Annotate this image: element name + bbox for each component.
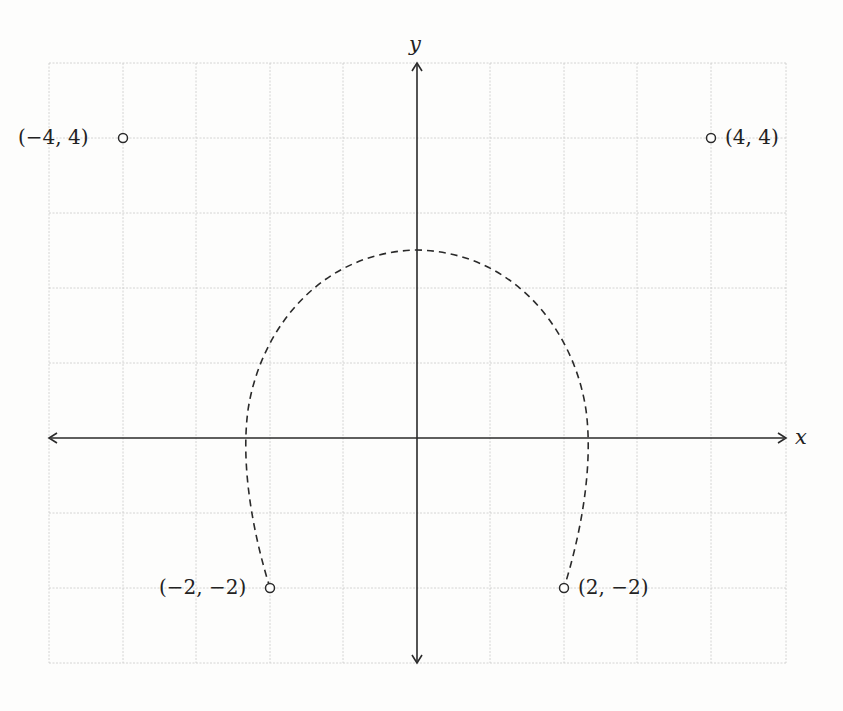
point-label-neg4-4: (−4, 4) xyxy=(18,127,89,147)
point-label-neg2-neg2: (−2, −2) xyxy=(159,577,246,597)
y-axis-label: y xyxy=(409,34,421,55)
point-2-neg2 xyxy=(560,584,569,593)
point-4-4 xyxy=(707,134,716,143)
x-axis-label: x xyxy=(795,427,807,448)
point-neg2-neg2 xyxy=(266,584,275,593)
axes xyxy=(49,63,786,663)
point-neg4-4 xyxy=(119,134,128,143)
graph-canvas xyxy=(0,0,843,711)
point-label-4-4: (4, 4) xyxy=(725,127,779,147)
point-label-2-neg2: (2, −2) xyxy=(578,577,649,597)
